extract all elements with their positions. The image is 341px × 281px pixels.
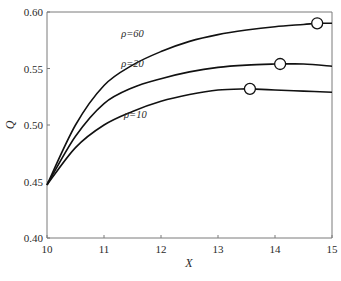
y-tick-label: 0.40	[24, 232, 44, 244]
optimum-marker-circle	[244, 83, 255, 94]
y-tick-label: 0.50	[24, 119, 44, 131]
optimum-marker-circle	[312, 18, 323, 29]
y-axis-ticks: 0.400.450.500.550.60	[24, 6, 50, 244]
y-tick-label: 0.45	[24, 176, 44, 188]
series-label: ρ=60	[120, 28, 144, 39]
x-tick-label: 14	[270, 243, 282, 255]
x-tick-label: 13	[213, 243, 225, 255]
series-label: ρ=20	[120, 58, 144, 69]
y-axis-title: Q	[3, 120, 17, 129]
line-chart: 101112131415 0.400.450.500.550.60 ρ=60ρ=…	[0, 0, 341, 281]
optimum-marker-circle	[275, 58, 286, 69]
data-series	[47, 23, 332, 185]
curve-20	[47, 64, 332, 185]
series-label: ρ=10	[123, 109, 147, 120]
x-tick-label: 12	[156, 243, 167, 255]
y-tick-label: 0.60	[24, 6, 44, 18]
x-tick-label: 10	[42, 243, 54, 255]
x-tick-label: 15	[327, 243, 339, 255]
curve-60	[47, 23, 332, 185]
x-tick-label: 11	[99, 243, 110, 255]
y-tick-label: 0.55	[24, 63, 44, 75]
plot-frame	[47, 12, 332, 238]
x-axis-title: X	[184, 256, 193, 270]
